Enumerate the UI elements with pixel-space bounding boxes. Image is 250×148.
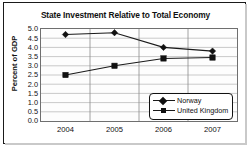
data-point-norway-2006[interactable] bbox=[160, 44, 166, 50]
data-point-norway-2005[interactable] bbox=[111, 29, 117, 35]
y-tick-label: 1.5 bbox=[14, 90, 38, 97]
x-tick-label: 2006 bbox=[144, 125, 184, 134]
y-tick-label: 5.0 bbox=[14, 25, 38, 32]
chart-legend: NorwayUnited Kingdom bbox=[149, 93, 233, 120]
diamond-marker bbox=[159, 96, 167, 104]
y-tick-label: 3.0 bbox=[14, 62, 38, 69]
x-axis-tick-labels: 2004200520062007 bbox=[40, 125, 238, 139]
chart-title: State Investment Relative to Total Econo… bbox=[4, 10, 247, 20]
y-tick-label: 4.0 bbox=[14, 44, 38, 51]
legend-label: United Kingdom bbox=[175, 106, 228, 116]
data-point-united-kingdom-2006[interactable] bbox=[161, 56, 166, 61]
legend-label: Norway bbox=[175, 96, 201, 106]
y-tick-label: 0.5 bbox=[14, 108, 38, 115]
y-tick-label: 1.0 bbox=[14, 99, 38, 106]
legend-item-united-kingdom[interactable]: United Kingdom bbox=[153, 106, 229, 116]
plot-area: NorwayUnited Kingdom bbox=[40, 28, 238, 122]
legend-item-norway[interactable]: Norway bbox=[153, 96, 229, 106]
diamond-marker-icon bbox=[153, 96, 175, 106]
y-axis-tick-labels: 5.04.54.03.53.02.52.01.51.00.50.0 bbox=[12, 28, 38, 122]
y-tick-label: 3.5 bbox=[14, 53, 38, 60]
y-tick-label: 4.5 bbox=[14, 35, 38, 42]
square-marker-icon bbox=[153, 106, 175, 116]
y-tick-label: 2.5 bbox=[14, 71, 38, 78]
data-point-united-kingdom-2004[interactable] bbox=[63, 72, 68, 77]
x-tick-label: 2007 bbox=[193, 125, 233, 134]
square-marker bbox=[161, 108, 166, 113]
y-tick-label: 0.0 bbox=[14, 117, 38, 124]
x-tick-label: 2004 bbox=[46, 125, 86, 134]
data-point-united-kingdom-2005[interactable] bbox=[112, 63, 117, 68]
x-tick-label: 2005 bbox=[95, 125, 135, 134]
data-point-norway-2004[interactable] bbox=[62, 31, 68, 37]
y-tick-label: 2.0 bbox=[14, 81, 38, 88]
chart-figure-frame: State Investment Relative to Total Econo… bbox=[3, 2, 246, 144]
data-point-norway-2007[interactable] bbox=[209, 48, 215, 54]
data-point-united-kingdom-2007[interactable] bbox=[210, 55, 215, 60]
